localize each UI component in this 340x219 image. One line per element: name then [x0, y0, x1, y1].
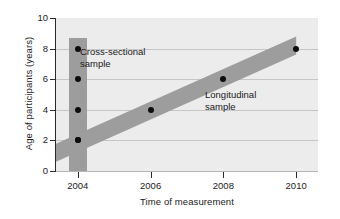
plot-area: [56, 18, 318, 171]
data-point: [75, 107, 81, 113]
y-axis-tick: [50, 140, 56, 141]
x-axis-tick-label: 2008: [193, 180, 253, 191]
y-axis-tick: [50, 49, 56, 50]
y-axis-title: Age of participants (years): [23, 14, 34, 174]
data-point: [293, 46, 299, 52]
annotation-cross-sectional: Cross-sectionalsample: [80, 46, 145, 69]
y-axis-tick-label: 10: [8, 12, 48, 23]
x-axis-tick-label: 2006: [121, 180, 181, 191]
data-point: [148, 107, 154, 113]
x-axis-tick: [223, 172, 224, 178]
y-axis-tick-label: 0: [8, 165, 48, 176]
longitudinal-band: [56, 18, 318, 171]
y-axis-tick: [50, 171, 56, 172]
gridline: [56, 171, 318, 172]
y-axis-tick-label: 4: [8, 104, 48, 115]
x-axis-tick-label: 2004: [48, 180, 108, 191]
x-axis-tick-label: 2010: [266, 180, 326, 191]
y-axis-tick-label: 8: [8, 43, 48, 54]
x-axis-tick: [151, 172, 152, 178]
annotation-line: Longitudinal: [205, 89, 256, 101]
x-axis-tick: [78, 172, 79, 178]
x-axis-tick: [296, 172, 297, 178]
annotation-longitudinal: Longitudinalsample: [205, 89, 256, 112]
annotation-line: sample: [80, 58, 145, 70]
y-axis-tick: [50, 79, 56, 80]
x-axis-title: Time of measurement: [56, 196, 318, 207]
annotation-line: sample: [205, 101, 256, 113]
annotation-line: Cross-sectional: [80, 46, 145, 58]
chart-figure: Age of participants (years) Time of meas…: [0, 0, 340, 219]
data-point: [75, 76, 81, 82]
y-axis-tick-label: 6: [8, 73, 48, 84]
y-axis-tick-label: 2: [8, 134, 48, 145]
y-axis-tick: [50, 18, 56, 19]
y-axis-tick: [50, 110, 56, 111]
y-axis-line: [55, 18, 56, 172]
